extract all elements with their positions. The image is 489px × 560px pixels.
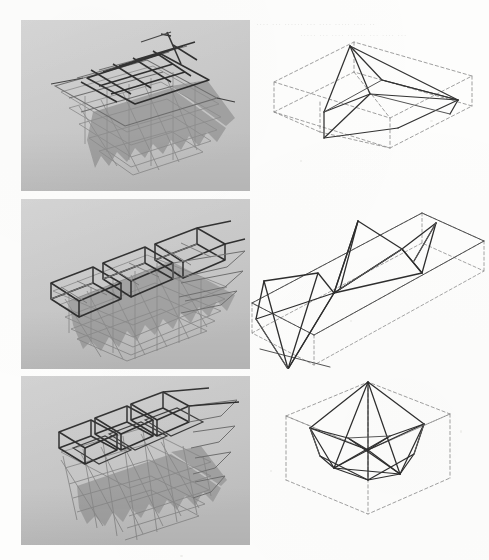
figure-row-1 [0,20,489,191]
page-surface: ··· ···· ····· ··· ···· ······ ·· ···· ·… [0,0,489,560]
drawing-flat-slab-unit-cell [262,20,489,191]
photo-vignette [21,199,250,369]
drawing-cube-unit-cell [272,376,482,545]
photo-flat-square-grid-model [21,20,250,191]
drawing-elongated-slab-unit-cell [250,199,489,369]
photo-deep-cellular-block-model [21,376,250,545]
photo-vignette [21,376,250,545]
figure-row-3 [0,376,489,545]
photo-linear-barrel-vault-model [21,199,250,369]
figure-row-2 [0,199,489,369]
figure-plate [0,0,489,560]
photo-vignette [21,20,250,191]
